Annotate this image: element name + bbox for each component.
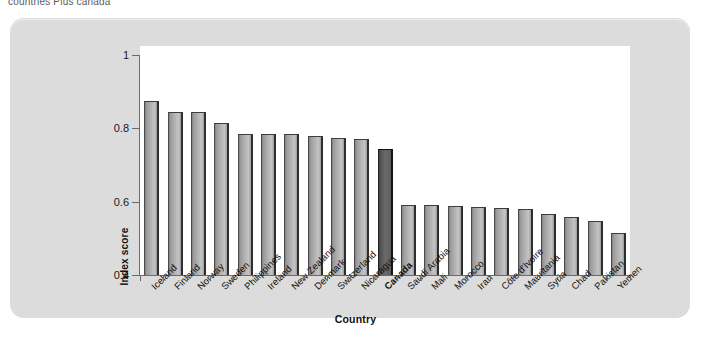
x-tick [280, 275, 281, 281]
y-tick [132, 128, 139, 129]
x-tick [373, 275, 374, 281]
y-tick [132, 202, 139, 203]
bar-chad[interactable] [564, 217, 579, 275]
x-tick [303, 275, 304, 281]
bar-new-zealand[interactable] [284, 134, 299, 275]
bar-series [140, 46, 630, 275]
x-tick [490, 275, 491, 281]
x-tick [187, 275, 188, 281]
x-tick [257, 275, 258, 281]
bar-c-te-d-ivoire[interactable] [494, 208, 509, 275]
y-tick-label: 1 [105, 49, 129, 61]
x-tick [233, 275, 234, 281]
x-tick [467, 275, 468, 281]
y-tick [132, 275, 139, 276]
x-tick [163, 275, 164, 281]
y-tick [132, 55, 139, 56]
x-tick [350, 275, 351, 281]
x-tick [513, 275, 514, 281]
bar-pakistan[interactable] [588, 221, 603, 275]
bar-philippines[interactable] [238, 134, 253, 275]
bar-sweden[interactable] [214, 123, 229, 275]
x-tick [583, 275, 584, 281]
x-tick [537, 275, 538, 281]
bar-norway[interactable] [191, 112, 206, 275]
bar-finland[interactable] [168, 112, 183, 275]
x-tick [327, 275, 328, 281]
x-tick [630, 275, 631, 281]
x-tick [607, 275, 608, 281]
y-axis-title-wrap: Index score [102, 123, 116, 203]
bar-iceland[interactable] [144, 101, 159, 275]
bar-morocco[interactable] [448, 206, 463, 275]
figure-caption: countries Plus canada [8, 0, 111, 7]
x-tick [210, 275, 211, 281]
x-tick [420, 275, 421, 281]
y-axis-title: Index score [119, 228, 130, 286]
chart-panel: 0.40.60.81 Index score IcelandFinlandNor… [10, 18, 690, 318]
x-tick [397, 275, 398, 281]
x-axis-title: Country [0, 313, 711, 325]
x-tick [140, 275, 141, 281]
x-tick [443, 275, 444, 281]
x-tick [560, 275, 561, 281]
